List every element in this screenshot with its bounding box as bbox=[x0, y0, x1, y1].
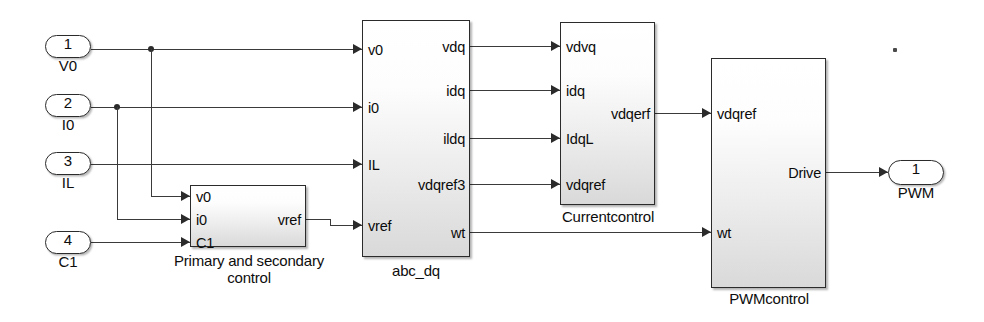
input-port-v0[interactable]: 1 bbox=[45, 35, 91, 58]
block-pwmcontrol[interactable]: vdqref wt Drive bbox=[711, 58, 826, 288]
simulink-diagram-canvas: 1 V0 2 I0 3 IL 4 C1 v0 i0 C1 vref Primar… bbox=[0, 0, 984, 322]
currentcontrol-input-idql: IdqL bbox=[566, 132, 593, 146]
arrow-abcdq-i0 bbox=[353, 102, 362, 112]
arrow-abcdq-il bbox=[353, 159, 362, 169]
arrow-cc-vdvq bbox=[551, 41, 560, 51]
input-port-c1-number: 4 bbox=[46, 232, 90, 247]
wire-vref bbox=[306, 219, 330, 220]
arrow-cc-vdqref bbox=[551, 179, 560, 189]
wire-i0-branch-horizontal bbox=[117, 219, 190, 220]
wire-v0-branch-vertical bbox=[151, 49, 152, 196]
abcdq-output-vdq: vdq bbox=[442, 40, 465, 54]
arrow-primary-i0 bbox=[181, 214, 190, 224]
arrow-cc-idq bbox=[551, 85, 560, 95]
wire-v0-main bbox=[91, 49, 362, 50]
input-port-i0[interactable]: 2 bbox=[45, 94, 91, 117]
block-primary-and-secondary-control[interactable]: v0 i0 C1 vref bbox=[190, 185, 306, 247]
arrow-abcdq-v0 bbox=[353, 44, 362, 54]
wire-ildq bbox=[470, 138, 560, 139]
wire-vdqref3 bbox=[470, 184, 560, 185]
input-port-v0-label: V0 bbox=[45, 58, 91, 74]
wire-idq bbox=[470, 90, 560, 91]
scan-artifact-speck bbox=[893, 48, 897, 52]
currentcontrol-input-vdqref: vdqref bbox=[566, 178, 605, 192]
block-currentcontrol-title: Currentcontrol bbox=[545, 208, 671, 225]
input-port-c1[interactable]: 4 bbox=[45, 231, 91, 254]
input-port-il-label: IL bbox=[45, 175, 91, 191]
currentcontrol-output-vdqerf: vdqerf bbox=[611, 107, 650, 121]
arrow-pwm-output bbox=[879, 167, 888, 177]
block-primary-and-secondary-control-title: Primary and secondary control bbox=[170, 252, 328, 286]
currentcontrol-input-vdvq: vdvq bbox=[566, 40, 596, 54]
arrow-cc-idql bbox=[551, 133, 560, 143]
output-port-pwm-number: 1 bbox=[889, 161, 943, 176]
primary-input-c1: C1 bbox=[196, 236, 214, 250]
abcdq-output-wt: wt bbox=[451, 226, 465, 240]
wire-vdq bbox=[470, 46, 560, 47]
abcdq-output-vdqref3: vdqref3 bbox=[418, 178, 465, 192]
block-abc-dq[interactable]: v0 i0 IL vref vdq idq ildq vdqref3 wt bbox=[362, 20, 470, 257]
wire-i0-branch-vertical bbox=[117, 107, 118, 219]
primary-output-vref: vref bbox=[278, 213, 301, 227]
input-port-c1-label: C1 bbox=[45, 254, 91, 270]
input-port-il[interactable]: 3 bbox=[45, 152, 91, 175]
abcdq-input-v0: v0 bbox=[368, 43, 383, 57]
block-currentcontrol[interactable]: vdvq idq IdqL vdqref vdqerf bbox=[560, 22, 655, 205]
arrow-pwm-vdqref bbox=[702, 108, 711, 118]
abcdq-output-ildq: ildq bbox=[443, 132, 465, 146]
block-abc-dq-title: abc_dq bbox=[362, 262, 470, 279]
wire-wt bbox=[470, 232, 711, 233]
pwmcontrol-output-drive: Drive bbox=[788, 166, 821, 180]
wire-il-main bbox=[91, 164, 362, 165]
primary-input-v0: v0 bbox=[196, 190, 211, 204]
input-port-i0-number: 2 bbox=[46, 95, 90, 110]
abcdq-input-vref: vref bbox=[368, 219, 391, 233]
arrow-primary-c1 bbox=[181, 237, 190, 247]
arrow-pwm-wt bbox=[702, 227, 711, 237]
arrow-primary-v0 bbox=[181, 191, 190, 201]
block-pwmcontrol-title: PWMcontrol bbox=[704, 290, 834, 307]
primary-input-i0: i0 bbox=[196, 213, 207, 227]
wire-c1-main bbox=[91, 242, 190, 243]
abcdq-input-il: IL bbox=[368, 158, 380, 172]
pwmcontrol-input-wt: wt bbox=[717, 226, 731, 240]
abcdq-input-i0: i0 bbox=[368, 101, 379, 115]
output-port-pwm-label: PWM bbox=[888, 185, 944, 201]
abcdq-output-idq: idq bbox=[446, 84, 465, 98]
input-port-v0-number: 1 bbox=[46, 36, 90, 51]
output-port-pwm[interactable]: 1 bbox=[888, 160, 944, 185]
input-port-i0-label: I0 bbox=[45, 117, 91, 133]
arrow-abcdq-vref bbox=[353, 220, 362, 230]
pwmcontrol-input-vdqref: vdqref bbox=[717, 107, 756, 121]
input-port-il-number: 3 bbox=[46, 153, 90, 168]
wire-i0-main bbox=[91, 107, 362, 108]
currentcontrol-input-idq: idq bbox=[566, 84, 585, 98]
